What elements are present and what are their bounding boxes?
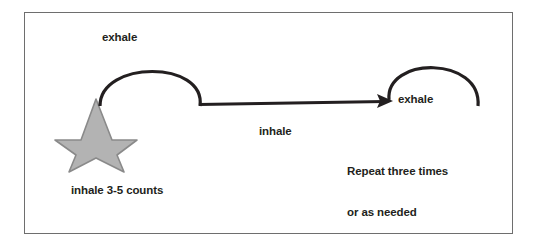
label-repeat-line1: Repeat three times: [347, 165, 448, 179]
label-inhale-middle: inhale: [259, 125, 292, 139]
diagram-page: exhale inhale exhale Repeat three times …: [0, 0, 538, 246]
label-inhale-counts: inhale 3-5 counts: [71, 184, 163, 198]
breathing-flow-graphic: [0, 0, 538, 246]
inhale-line: [199, 102, 385, 105]
label-exhale-left: exhale: [102, 31, 137, 45]
star-icon: [55, 99, 137, 172]
exhale-arc-left: [100, 72, 200, 107]
label-repeat-instruction: Repeat three times or as needed: [347, 138, 448, 246]
label-exhale-right: exhale: [398, 93, 433, 107]
label-repeat-line2: or as needed: [347, 206, 448, 220]
